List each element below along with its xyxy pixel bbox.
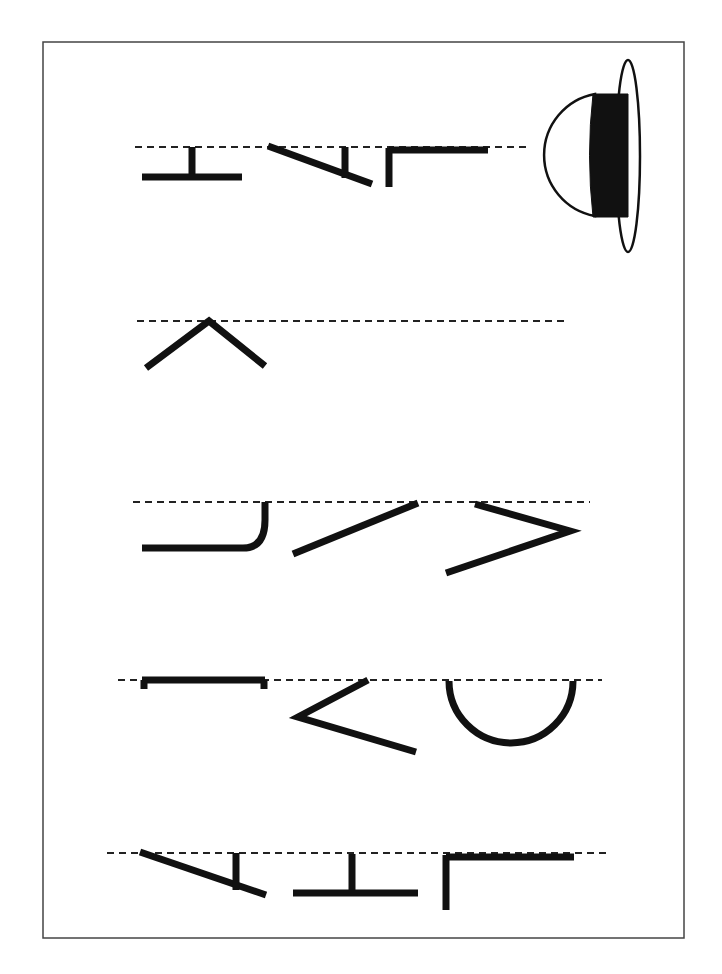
worksheet-canvas [0,0,722,974]
hat-band [590,94,629,217]
